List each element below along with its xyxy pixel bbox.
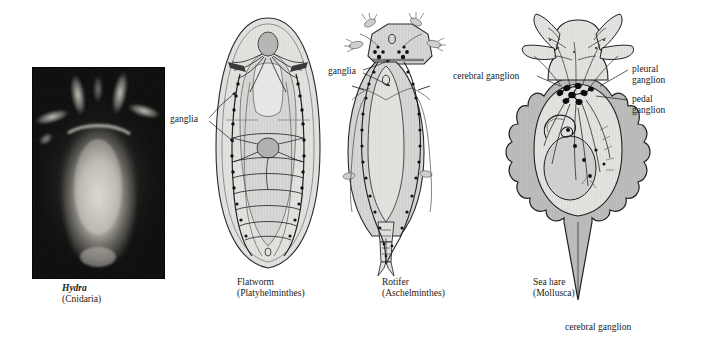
label-flatworm-ganglia-text: ganglia <box>170 114 198 125</box>
sea-hare-drawing <box>506 14 650 300</box>
label-pleural-ganglion-line2: ganglion <box>632 75 665 86</box>
label-pedal-ganglion-line1: pedal <box>632 94 665 105</box>
flatworm-cerebral-ganglion <box>258 32 278 56</box>
label-pedal-ganglion: pedal ganglion <box>632 94 665 115</box>
rotifer-drawing <box>343 12 446 276</box>
label-cerebral-ganglion: cerebral ganglion <box>453 71 519 82</box>
sea-hare-organ <box>544 136 596 200</box>
label-flatworm-ganglia: ganglia <box>170 114 198 125</box>
phylum-rotifer: (Aschelminthes) <box>382 288 445 299</box>
label-pleural-ganglion-line1: pleural <box>632 64 665 75</box>
label-pedal-ganglion-line2: ganglion <box>632 105 665 116</box>
label-pleural-ganglion: pleural ganglion <box>632 64 665 85</box>
flatworm-drawing <box>216 18 320 268</box>
caption-sea-hare: Sea hare (Mollusca) <box>533 277 575 298</box>
stray-text: cerebral ganglion <box>565 322 631 333</box>
figure-root: Hydra (Cnidaria) <box>0 0 701 338</box>
flatworm-ventral-ganglion <box>257 138 279 158</box>
label-cerebral-ganglion-text: cerebral ganglion <box>453 71 519 82</box>
sea-hare-head <box>548 20 608 80</box>
phylum-sea-hare: (Mollusca) <box>533 288 575 299</box>
sea-hare-left-oral-tentacle <box>522 45 556 59</box>
species-name-sea-hare: Sea hare <box>533 277 575 288</box>
species-name-rotifer: Rotifer <box>382 277 445 288</box>
caption-flatworm: Flatworm (Platyhelminthes) <box>237 277 305 298</box>
drawings-layer <box>0 0 701 338</box>
species-name-flatworm: Flatworm <box>237 277 305 288</box>
caption-rotifer: Rotifer (Aschelminthes) <box>382 277 445 298</box>
label-rotifer-ganglia: ganglia <box>328 66 356 77</box>
phylum-flatworm: (Platyhelminthes) <box>237 288 305 299</box>
label-rotifer-ganglia-text: ganglia <box>328 66 356 77</box>
stray-cerebral-ganglion-text: cerebral ganglion <box>565 322 631 333</box>
